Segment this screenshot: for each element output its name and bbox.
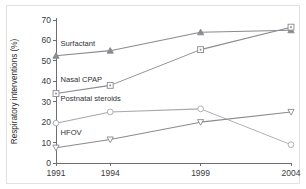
series-label: Postnatal steroids bbox=[61, 94, 122, 103]
data-point-marker bbox=[53, 145, 59, 151]
data-point-marker-dot bbox=[55, 93, 57, 95]
series-nasal-cpap: Nasal CPAP bbox=[53, 24, 294, 96]
data-point-marker bbox=[288, 142, 294, 148]
y-tick-label: 60 bbox=[42, 35, 52, 45]
y-axis-title: Respiratory interventions (%) bbox=[10, 38, 19, 144]
data-point-marker bbox=[53, 120, 59, 126]
series-label: HFOV bbox=[61, 128, 83, 137]
y-tick-label: 50 bbox=[42, 56, 52, 66]
data-point-marker bbox=[107, 109, 113, 115]
x-tick-label: 1999 bbox=[191, 168, 210, 178]
y-tick-label: 0 bbox=[46, 158, 51, 168]
y-tick-label: 70 bbox=[42, 15, 52, 25]
y-tick-label: 10 bbox=[42, 138, 52, 148]
series-hfov: HFOV bbox=[53, 109, 294, 150]
x-tick-label: 1994 bbox=[101, 168, 120, 178]
y-tick-label: 40 bbox=[42, 76, 52, 86]
series-surfactant: Surfactant bbox=[53, 27, 294, 58]
series-line bbox=[56, 109, 291, 145]
chart-figure: 0102030405060701991199419992004Respirato… bbox=[0, 0, 306, 189]
data-point-marker-dot bbox=[109, 85, 111, 87]
x-tick-label: 2004 bbox=[282, 168, 301, 178]
series-label: Nasal CPAP bbox=[61, 75, 103, 84]
data-point-marker bbox=[198, 106, 204, 112]
y-tick-label: 20 bbox=[42, 117, 52, 127]
series-postnatal-steroids: Postnatal steroids bbox=[53, 94, 294, 148]
series-label: Surfactant bbox=[61, 39, 97, 48]
series-line bbox=[56, 112, 291, 148]
data-point-marker-dot bbox=[290, 26, 292, 28]
x-tick-label: 1991 bbox=[47, 168, 66, 178]
y-tick-label: 30 bbox=[42, 97, 52, 107]
line-chart: 0102030405060701991199419992004Respirato… bbox=[0, 0, 306, 189]
data-point-marker-dot bbox=[200, 49, 202, 51]
